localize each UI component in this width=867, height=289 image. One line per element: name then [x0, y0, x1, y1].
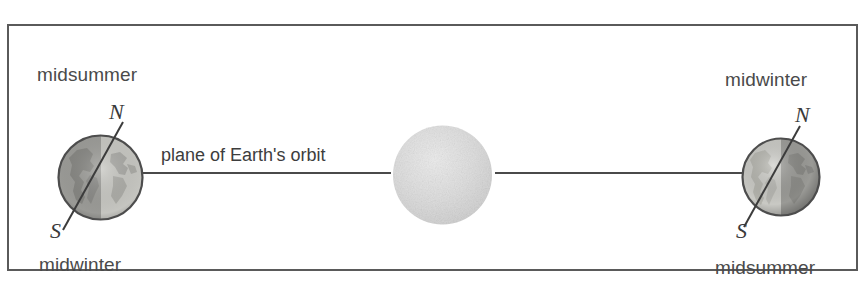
diagram-canvas: midsummer midwinter midwinter midsummer …: [0, 0, 867, 289]
earth-globe-right: [741, 137, 821, 217]
label-midwinter-left: midwinter: [39, 254, 121, 276]
axis-label-south-right: S: [736, 218, 747, 244]
orbit-plane-line-right: [495, 172, 743, 174]
sun-icon: [392, 125, 493, 225]
axis-label-south-left: S: [50, 218, 61, 244]
label-midsummer-right: midsummer: [715, 257, 815, 279]
axis-label-north-left: N: [109, 99, 124, 125]
diagram-frame: midsummer midwinter midwinter midsummer …: [7, 24, 858, 271]
earth-globe-left: [57, 134, 144, 221]
orbit-plane-line-left: [142, 172, 391, 174]
label-midwinter-right: midwinter: [725, 69, 807, 91]
label-midsummer-left: midsummer: [37, 64, 137, 86]
axis-label-north-right: N: [795, 102, 810, 128]
orbit-plane-label: plane of Earth's orbit: [161, 145, 326, 166]
